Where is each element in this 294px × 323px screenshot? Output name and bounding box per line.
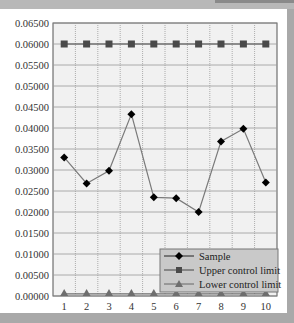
square-marker-icon	[195, 41, 202, 48]
square-marker-icon	[83, 41, 90, 48]
x-tick-label: 4	[129, 301, 135, 312]
y-tick-label: 0.01500	[15, 228, 49, 239]
x-tick-label: 8	[218, 301, 223, 312]
x-tick-label: 5	[151, 301, 156, 312]
square-marker-icon	[262, 41, 269, 48]
x-tick-label: 3	[106, 301, 111, 312]
svg-text:Sample: Sample	[199, 251, 231, 262]
y-tick-label: 0.06500	[15, 18, 49, 29]
y-tick-label: 0.06000	[15, 39, 49, 50]
svg-text:Upper control limit: Upper control limit	[199, 265, 280, 276]
x-tick-label: 7	[196, 301, 201, 312]
y-tick-label: 0.03000	[15, 165, 49, 176]
square-marker-icon	[218, 41, 225, 48]
y-tick-label: 0.00000	[15, 291, 49, 302]
square-marker-icon	[173, 41, 180, 48]
y-tick-label: 0.03500	[15, 144, 49, 155]
y-tick-label: 0.00500	[15, 270, 49, 281]
square-marker-icon	[240, 41, 247, 48]
y-axis: 0.000000.005000.010000.015000.020000.025…	[15, 18, 49, 302]
square-marker-icon	[106, 41, 113, 48]
y-tick-label: 0.05000	[15, 81, 49, 92]
x-tick-label: 1	[62, 301, 67, 312]
legend: Sample Upper control limit Lower control…	[160, 249, 281, 292]
y-tick-label: 0.04500	[15, 102, 49, 113]
square-marker-icon	[61, 41, 68, 48]
x-tick-label: 6	[174, 301, 179, 312]
control-chart: 0.000000.005000.010000.015000.020000.025…	[0, 0, 294, 323]
square-marker-icon	[150, 41, 157, 48]
x-axis: 12345678910	[62, 301, 271, 312]
x-tick-label: 2	[84, 301, 89, 312]
y-tick-label: 0.05500	[15, 60, 49, 71]
y-tick-label: 0.01000	[15, 249, 49, 260]
svg-text:Lower control limit: Lower control limit	[199, 279, 281, 290]
x-tick-label: 10	[261, 301, 272, 312]
y-tick-label: 0.04000	[15, 123, 49, 134]
y-tick-label: 0.02000	[15, 207, 49, 218]
y-tick-label: 0.02500	[15, 186, 49, 197]
square-marker-icon	[176, 267, 182, 273]
x-tick-label: 9	[241, 301, 246, 312]
square-marker-icon	[128, 41, 135, 48]
